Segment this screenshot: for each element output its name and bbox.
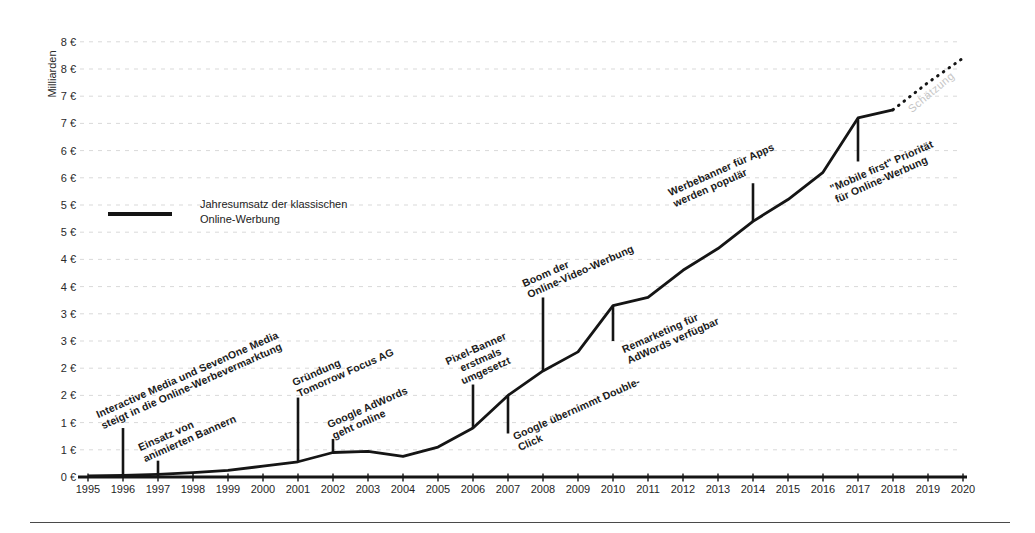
y-tick-label: 4 € [61,253,76,265]
x-tick-label: 2015 [776,483,800,495]
x-tick-label: 2005 [426,483,450,495]
y-tick-label: 5 € [61,199,76,211]
x-tick-label: 2018 [881,483,905,495]
x-tick-label: 2019 [916,483,940,495]
x-tick-label: 2012 [671,483,695,495]
x-tick-label: 1995 [76,483,100,495]
footer-divider [30,522,1010,523]
x-tick-label: 2011 [636,483,660,495]
page-root: 0 €1 €1 €2 €2 €3 €3 €4 €4 €5 €5 €6 €6 €7… [0,0,1035,533]
x-tick-label: 2004 [391,483,415,495]
x-tick-label: 1999 [216,483,240,495]
y-tick-label: 8 € [61,36,76,48]
x-tick-label: 1997 [146,483,170,495]
x-tick-label: 2009 [566,483,590,495]
x-tick-label: 2016 [811,483,835,495]
legend: Jahresumsatz der klassischen Online-Werb… [108,197,347,227]
x-tick-label: 2006 [461,483,485,495]
y-tick-label: 2 € [61,362,76,374]
y-tick-label: 6 € [61,172,76,184]
x-tick-label: 2003 [356,483,380,495]
x-tick-label: 1998 [181,483,205,495]
y-tick-label: 8 € [61,63,76,75]
x-tick-label: 2010 [601,483,625,495]
y-tick-label: 3 € [61,335,76,347]
y-tick-label: 3 € [61,308,76,320]
y-tick-label: 0 € [61,471,76,483]
y-axis-title: Milliarden [46,34,58,114]
y-tick-label: 1 € [61,444,76,456]
x-tick-label: 2001 [286,483,310,495]
y-tick-label: 2 € [61,389,76,401]
y-tick-label: 1 € [61,417,76,429]
x-tick-label: 2013 [706,483,730,495]
x-tick-label: 2020 [951,483,975,495]
y-tick-label: 7 € [61,90,76,102]
x-tick-label: 1996 [111,483,135,495]
x-tick-label: 2002 [321,483,345,495]
x-tick-label: 2017 [846,483,870,495]
x-tick-label: 2007 [496,483,520,495]
y-tick-label: 5 € [61,226,76,238]
x-tick-label: 2000 [251,483,275,495]
y-tick-label: 7 € [61,117,76,129]
legend-label: Jahresumsatz der klassischen Online-Werb… [200,197,347,227]
y-tick-label: 6 € [61,145,76,157]
y-tick-label: 4 € [61,281,76,293]
x-tick-label: 2008 [531,483,555,495]
legend-line-swatch [108,212,172,216]
x-tick-label: 2014 [741,483,765,495]
